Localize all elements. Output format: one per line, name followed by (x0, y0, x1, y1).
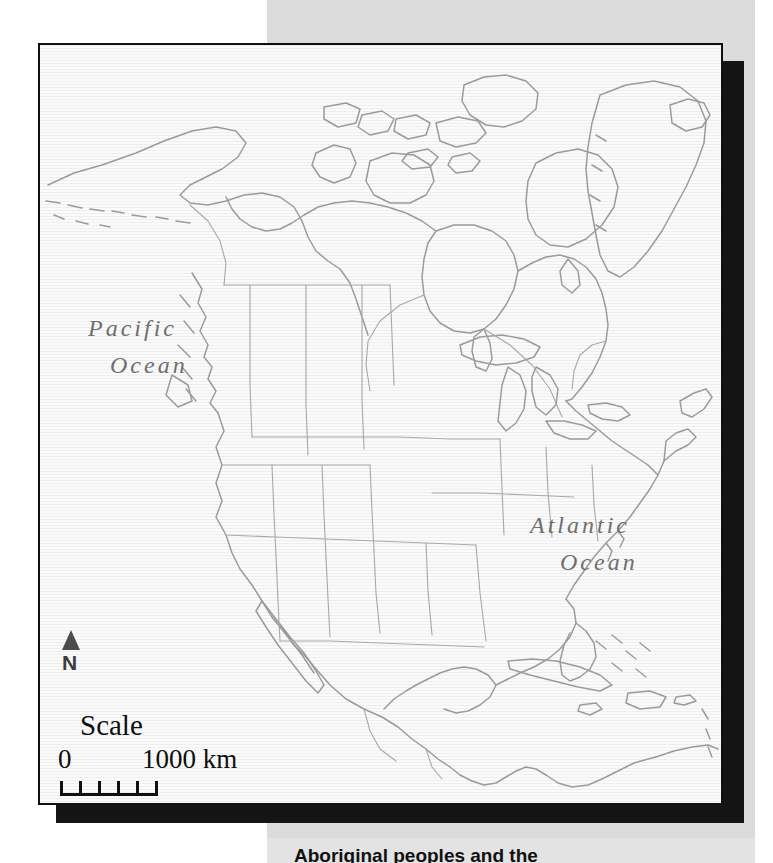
scale-bar-baseline (60, 793, 158, 796)
scale-tick (155, 781, 158, 796)
north-america-outline-svg (40, 45, 721, 803)
scale-min-label: 0 (58, 744, 72, 775)
scale-bar-graphic (60, 780, 158, 796)
scale-tick (60, 781, 63, 796)
scale-bar: Scale 0 1000 km (58, 710, 308, 796)
ocean-label-atlantic-line1: Atlantic (530, 512, 630, 538)
scale-tick (79, 781, 82, 796)
north-arrow-triangle (62, 630, 80, 650)
figure-caption: Aboriginal peoples and the (294, 845, 538, 863)
scale-tick (98, 781, 101, 796)
scale-max-label: 1000 km (142, 744, 237, 775)
north-arrow-label: N (62, 652, 98, 673)
scale-tick (117, 781, 120, 796)
scanned-page: Pacific Ocean Atlantic Ocean N Scale 0 1… (0, 0, 773, 863)
map-figure: Pacific Ocean Atlantic Ocean N Scale 0 1… (38, 43, 723, 805)
scale-numbers: 0 1000 km (58, 744, 308, 776)
ocean-label-pacific-line1: Pacific (88, 315, 177, 341)
ocean-label-pacific-line2: Ocean (88, 347, 188, 384)
scale-tick (136, 781, 139, 796)
ocean-label-atlantic: Atlantic Ocean (530, 507, 638, 581)
north-arrow-icon: N (58, 630, 98, 673)
coastlines-group (46, 75, 718, 787)
scale-title: Scale (80, 710, 308, 742)
ocean-label-atlantic-line2: Ocean (530, 544, 638, 581)
ocean-label-pacific: Pacific Ocean (88, 310, 188, 384)
